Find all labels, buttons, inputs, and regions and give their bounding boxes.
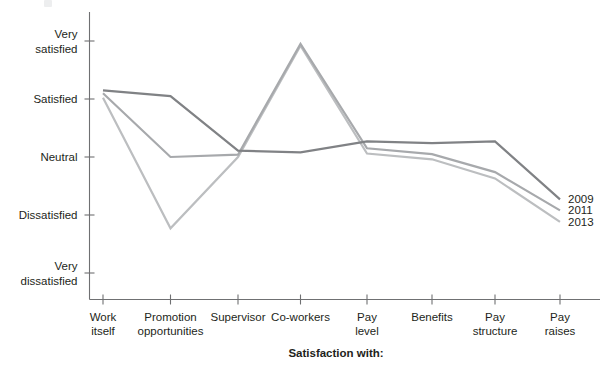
axes-group [90,12,601,300]
x-tick-label-8: Pay [550,311,570,323]
x-axis-labels: WorkitselfPromotionopportunitiesSupervis… [90,311,576,337]
x-tick-label-2-line2: opportunities [138,325,204,337]
y-tick-label-3: Neutral [40,151,77,163]
x-tick-label-7-line2: structure [473,325,518,337]
y-tick-label-1-line2: satisfied [35,43,77,55]
x-tick-label-8-line2: raises [545,325,576,337]
x-axis-caption-text: Satisfaction with: [288,347,383,359]
chart-container: VerysatisfiedSatisfiedNeutralDissatisfie… [0,0,611,367]
legend-label-2013: 2013 [568,216,594,228]
x-tick-label-5: Pay [357,311,377,323]
x-tick-label-4: Co-workers [271,311,330,323]
x-axis-caption: Satisfaction with: [288,347,383,359]
legend: 200920112013 [568,193,594,228]
x-tick-label-2: Promotion [144,311,196,323]
y-axis-labels: VerysatisfiedSatisfiedNeutralDissatisfie… [19,28,78,287]
x-tick-label-1-line2: itself [91,325,115,337]
line-chart-svg: VerysatisfiedSatisfiedNeutralDissatisfie… [0,0,611,367]
legend-label-2011: 2011 [568,204,593,216]
y-tick-label-5-line2: dissatisfied [21,275,78,287]
series-line-2011 [103,44,560,210]
y-tick-label-5: Very [54,260,77,272]
series-line-2013 [103,46,560,229]
y-tick-label-1: Very [54,28,77,40]
x-tick-label-5-line2: level [355,325,379,337]
y-tick-label-4: Dissatisfied [19,209,78,221]
x-tick-label-7: Pay [485,311,505,323]
x-tick-label-1: Work [90,311,117,323]
x-tick-label-6: Benefits [411,311,453,323]
y-tick-label-2: Satisfied [33,93,77,105]
x-tick-label-3: Supervisor [211,311,266,323]
series-line-2009 [103,90,560,199]
series-lines [103,44,560,228]
